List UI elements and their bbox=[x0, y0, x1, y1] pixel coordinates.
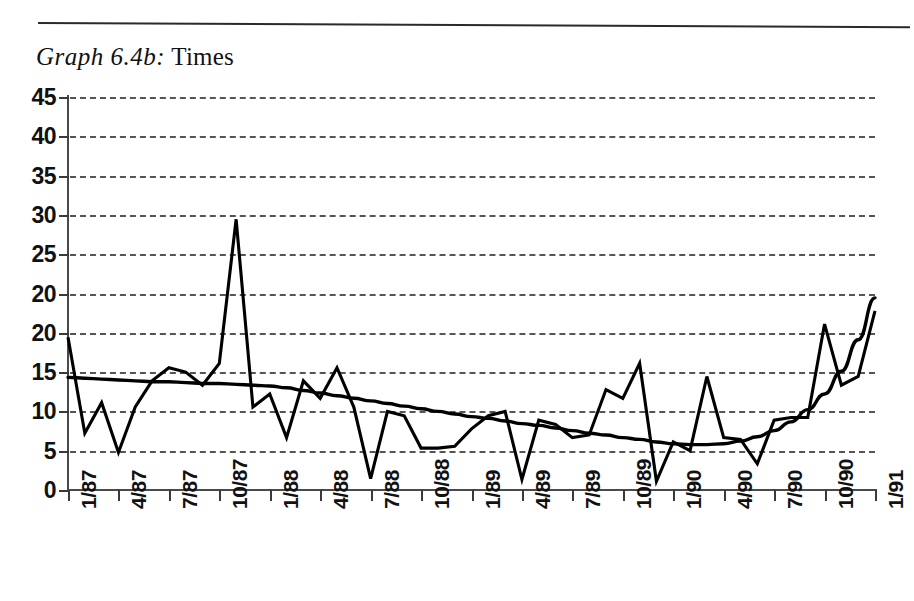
x-axis-tick bbox=[522, 490, 524, 501]
x-axis-tick bbox=[219, 490, 221, 501]
x-axis-tick bbox=[169, 490, 171, 501]
y-axis-tick-label: 45 bbox=[31, 84, 56, 111]
page-title: Graph 6.4b: Times bbox=[36, 42, 234, 72]
x-axis-tick bbox=[774, 490, 776, 501]
x-axis-tick bbox=[270, 490, 272, 501]
plot-area: 45403530252020151050 1/874/877/8710/871/… bbox=[68, 97, 875, 490]
x-axis-tick-label: 1/91 bbox=[884, 470, 908, 509]
page-title-prefix: Graph 6.4b: bbox=[36, 43, 165, 70]
y-axis-tick-label: 30 bbox=[31, 201, 56, 228]
y-axis-tick-label: 0 bbox=[44, 477, 56, 504]
x-axis-tick bbox=[118, 490, 120, 501]
chart-page: Graph 6.4b: Times 45403530252020151050 1… bbox=[0, 0, 914, 601]
x-axis-tick bbox=[724, 490, 726, 501]
x-axis-tick bbox=[472, 490, 474, 501]
trend-line-series bbox=[68, 298, 875, 445]
y-axis-tick-label: 10 bbox=[31, 398, 56, 425]
y-axis-tick-label: 35 bbox=[31, 162, 56, 189]
y-axis-tick-label: 25 bbox=[31, 241, 56, 268]
y-axis-tick-label: 15 bbox=[31, 359, 56, 386]
y-axis-tick-label: 20 bbox=[31, 319, 56, 346]
y-axis-tick-label: 40 bbox=[31, 123, 56, 150]
x-axis-tick bbox=[673, 490, 675, 501]
x-axis-tick bbox=[875, 490, 877, 501]
x-axis-tick bbox=[320, 490, 322, 501]
x-axis-tick bbox=[68, 490, 70, 501]
y-axis-tick-label: 20 bbox=[31, 280, 56, 307]
chart-plot bbox=[68, 97, 875, 490]
y-axis-tick-label: 5 bbox=[44, 437, 56, 464]
x-axis-tick bbox=[421, 490, 423, 501]
times-data-series bbox=[68, 219, 875, 481]
page-title-main: Times bbox=[171, 43, 234, 70]
x-axis-tick bbox=[572, 490, 574, 501]
page-divider-rule bbox=[38, 22, 910, 28]
x-axis-tick bbox=[371, 490, 373, 501]
x-axis-tick bbox=[825, 490, 827, 501]
x-axis-tick bbox=[623, 490, 625, 501]
